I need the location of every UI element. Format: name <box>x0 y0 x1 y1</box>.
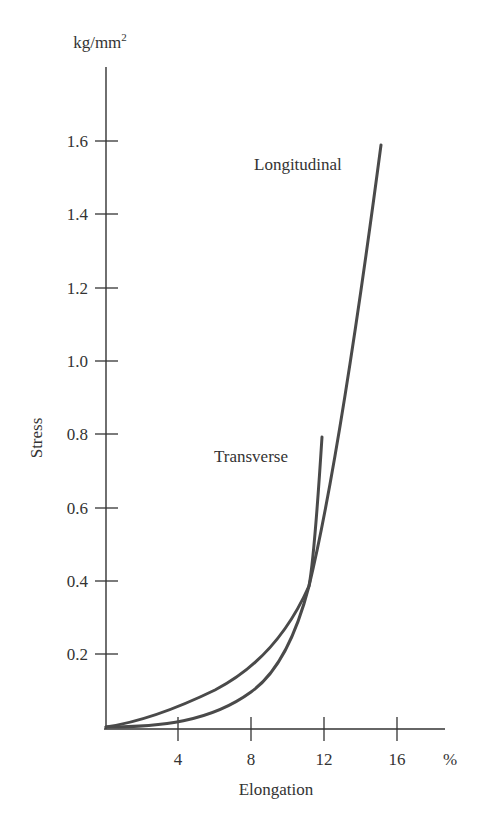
y-tick-label: 1.6 <box>67 132 88 151</box>
y-unit-label: kg/mm2 <box>73 31 127 52</box>
x-tick-label: 16 <box>389 750 406 769</box>
stress-elongation-chart: 0.2 0.4 0.6 0.8 1.0 1.2 1.4 1.6 4 8 12 1… <box>0 0 485 829</box>
y-tick-label: 1.0 <box>67 352 88 371</box>
y-tick-label: 0.2 <box>67 645 88 664</box>
y-tick-label: 0.4 <box>67 572 89 591</box>
y-tick-label: 1.2 <box>67 279 88 298</box>
x-axis-title: Elongation <box>239 780 314 799</box>
x-tick-label: 4 <box>174 750 183 769</box>
y-tick-labels: 0.2 0.4 0.6 0.8 1.0 1.2 1.4 1.6 <box>67 132 89 664</box>
x-tick-labels: 4 8 12 16 % <box>174 750 457 769</box>
x-tick-label: 8 <box>247 750 256 769</box>
y-axis-title: Stress <box>27 418 46 459</box>
y-tick-label: 1.4 <box>67 205 89 224</box>
transverse-label: Transverse <box>214 447 288 466</box>
x-unit-label: % <box>443 750 457 769</box>
longitudinal-label: Longitudinal <box>254 155 342 174</box>
x-tick-label: 12 <box>316 750 333 769</box>
longitudinal-curve <box>106 145 381 727</box>
y-tick-label: 0.8 <box>67 425 88 444</box>
y-tick-label: 0.6 <box>67 499 88 518</box>
transverse-curve <box>106 437 322 727</box>
